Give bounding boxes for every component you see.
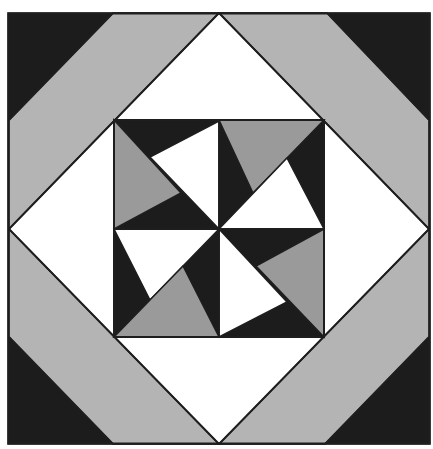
quilt-block-figure	[0, 0, 433, 449]
quilt-block-svg	[0, 0, 433, 449]
